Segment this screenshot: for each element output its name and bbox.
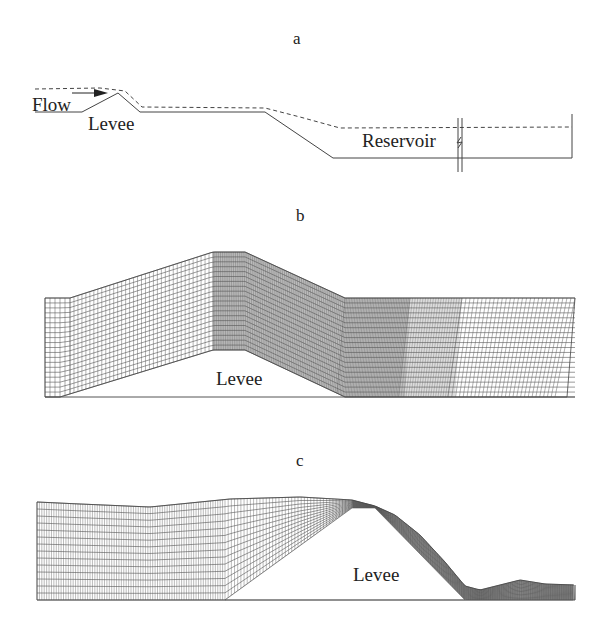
label-levee-b: Levee [216,369,262,388]
figure-canvas [0,0,602,633]
label-flow: Flow [32,95,71,114]
flow-arrow [72,89,108,97]
label-levee-a: Levee [88,114,134,133]
panel-c-mesh [37,497,575,600]
panel-b-mesh [45,252,575,397]
label-reservoir: Reservoir [362,131,436,150]
panel-label-b: b [296,207,305,224]
panel-label-c: c [296,452,304,469]
panel-label-a: a [293,30,301,47]
label-levee-c: Levee [353,565,399,584]
